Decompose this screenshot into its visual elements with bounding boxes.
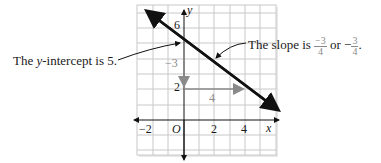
y-tick-2: 2 xyxy=(174,80,180,95)
y-intercept-annotation: The y-intercept is 5. xyxy=(13,53,117,69)
rise-label: −3 xyxy=(165,56,178,71)
x-tick-4: 4 xyxy=(241,122,247,137)
y-axis-label: y xyxy=(187,3,192,18)
y-tick-6: 6 xyxy=(174,18,180,33)
run-label: 4 xyxy=(209,91,215,106)
annotation-text: The xyxy=(13,53,36,68)
x-tick-2: 2 xyxy=(211,122,217,137)
x-tick-neg2: −2 xyxy=(139,122,152,137)
slope-annotation: The slope is −34 or −34. xyxy=(248,36,362,57)
annotation-text: -intercept is 5. xyxy=(42,53,117,68)
annotation-text: or − xyxy=(327,37,352,52)
x-axis-label: x xyxy=(266,121,271,136)
annotation-text: . xyxy=(358,37,361,52)
coordinate-graph xyxy=(0,0,381,163)
origin-label: O xyxy=(172,122,181,137)
slope-fraction-1: −34 xyxy=(314,36,327,57)
annotation-text: The slope is xyxy=(248,37,314,52)
